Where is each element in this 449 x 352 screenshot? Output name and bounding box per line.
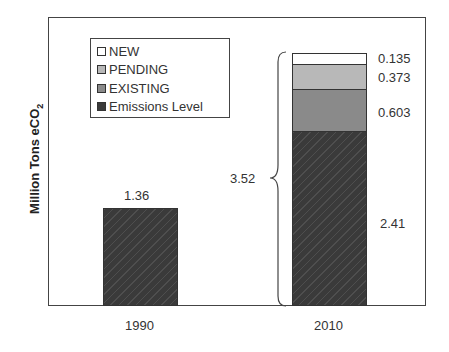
brace-icon <box>268 50 288 308</box>
x-tick-1990: 1990 <box>125 318 154 333</box>
value-label-1990: 1.36 <box>124 188 149 203</box>
legend: NEW PENDING EXISTING Emissions Level <box>90 38 230 118</box>
y-axis-label-text: Million Tons eCO <box>27 109 42 214</box>
legend-swatch-emissions <box>97 102 106 111</box>
legend-item-existing: EXISTING <box>97 79 223 98</box>
legend-label-new: NEW <box>109 44 139 59</box>
legend-label-pending: PENDING <box>109 62 168 77</box>
bar-2010-pending <box>292 64 367 90</box>
total-label: 3.52 <box>230 171 255 186</box>
legend-swatch-pending <box>97 65 106 74</box>
value-label-pending: 0.373 <box>378 70 411 85</box>
bar-1990-emissions <box>103 208 178 306</box>
y-axis-label-subscript: 2 <box>35 104 45 109</box>
y-axis-label: Million Tons eCO2 <box>27 69 45 249</box>
x-tick-2010: 2010 <box>314 318 343 333</box>
value-label-existing: 0.603 <box>378 105 411 120</box>
legend-label-existing: EXISTING <box>109 81 170 96</box>
value-label-emissions: 2.41 <box>380 216 405 231</box>
legend-item-emissions: Emissions Level <box>97 98 223 117</box>
value-label-new: 0.135 <box>378 51 411 66</box>
legend-swatch-new <box>97 47 106 56</box>
legend-swatch-existing <box>97 84 106 93</box>
legend-item-pending: PENDING <box>97 61 223 80</box>
bar-2010-existing <box>292 89 367 132</box>
legend-item-new: NEW <box>97 42 223 61</box>
bar-2010-emissions <box>292 131 367 306</box>
legend-label-emissions: Emissions Level <box>109 99 203 114</box>
